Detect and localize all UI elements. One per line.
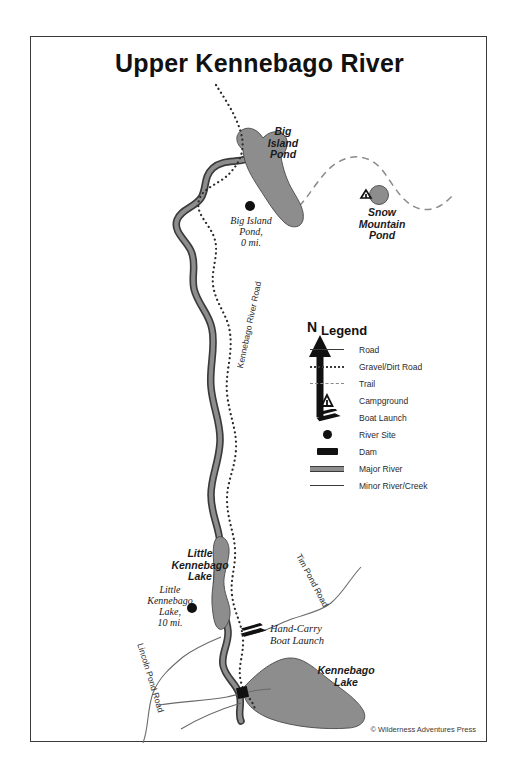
- legend-item-campground: Campground: [303, 392, 463, 409]
- road-icon: [303, 341, 355, 358]
- legend: N Legend Road Gravel/Dirt Road Trail: [303, 323, 463, 494]
- campground-icon: [303, 392, 355, 409]
- legend-item-major-river: Major River: [303, 460, 463, 477]
- boat-launch-icon: [303, 409, 355, 426]
- legend-item-label: River Site: [355, 430, 396, 440]
- legend-item-river-site: River Site: [303, 426, 463, 443]
- copyright-notice: © Wilderness Adventures Press: [370, 725, 476, 734]
- legend-item-label: Campground: [355, 396, 408, 406]
- dam-marker: [236, 686, 249, 699]
- trail-icon: [303, 375, 355, 392]
- minor-creek-2: [181, 703, 241, 729]
- map-page: Upper Kennebago River: [0, 0, 515, 778]
- lincoln-pond-road: [143, 637, 221, 743]
- legend-item-label: Road: [355, 345, 379, 355]
- gravel-road-icon: [303, 358, 355, 375]
- little-kennebago-lake-shape: [212, 537, 230, 630]
- legend-item-dam: Dam: [303, 443, 463, 460]
- river-site-big-island-pond[interactable]: [245, 201, 255, 211]
- river-site-icon: [303, 426, 355, 443]
- trail-path: [289, 157, 455, 212]
- river-site-little-kennebago-lake[interactable]: [187, 603, 197, 613]
- minor-river-icon: [303, 477, 355, 494]
- legend-item-road: Road: [303, 341, 463, 358]
- legend-item-gravel-road: Gravel/Dirt Road: [303, 358, 463, 375]
- legend-item-label: Minor River/Creek: [355, 481, 428, 491]
- legend-item-label: Trail: [355, 379, 375, 389]
- kennebago-lake-shape: [244, 658, 365, 729]
- kennebago-river: [176, 159, 246, 721]
- dam-icon: [303, 443, 355, 460]
- major-river-icon: [303, 460, 355, 477]
- legend-item-minor-river: Minor River/Creek: [303, 477, 463, 494]
- map-frame: Upper Kennebago River: [30, 36, 487, 742]
- big-island-pond-shape: [237, 128, 304, 227]
- legend-item-label: Major River: [355, 464, 402, 474]
- legend-item-label: Gravel/Dirt Road: [355, 362, 422, 372]
- boat-launch-marker: [239, 622, 266, 638]
- legend-item-trail: Trail: [303, 375, 463, 392]
- legend-heading: Legend: [321, 323, 463, 338]
- snow-mountain-pond-shape: [370, 186, 389, 205]
- legend-item-label: Boat Launch: [355, 413, 407, 423]
- campground-marker: [361, 190, 371, 198]
- legend-item-label: Dam: [355, 447, 377, 457]
- legend-item-boat-launch: Boat Launch: [303, 409, 463, 426]
- north-label: N: [307, 319, 317, 335]
